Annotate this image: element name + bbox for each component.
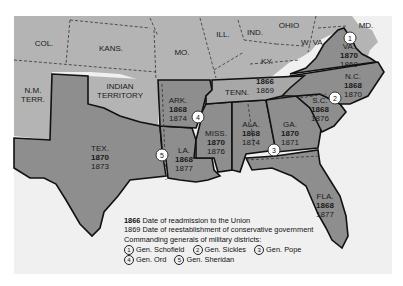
label-kans: KANS.: [99, 44, 123, 53]
legend-conservative: 1869 Date of reestablishment of conserva…: [124, 225, 313, 234]
label-tenn: TENN.: [225, 88, 249, 97]
district-marker-5: 5: [156, 149, 169, 162]
label-miss: MISS.18701876: [205, 129, 227, 156]
legend-generals-heading: Commanding generals of military district…: [124, 235, 313, 244]
legend-readmission: 1866 Date of readmission to the Union: [124, 216, 313, 225]
label-tex: TEX.18701873: [91, 144, 109, 171]
label-tenn-years: 18661869: [256, 77, 274, 95]
label-ohio: OHIO: [279, 21, 299, 30]
label-ga: GA.18701871: [281, 120, 299, 147]
label-fla: FLA.18681877: [316, 192, 334, 219]
label-va: VA.18701869: [340, 42, 358, 69]
label-ky: KY.: [261, 57, 273, 66]
legend-general-5: 5Gen. Sheridan: [174, 255, 234, 264]
legend-general-1: 1Gen. Schofield: [124, 245, 184, 254]
label-ark: ARK.18681874: [169, 96, 188, 123]
label-mo: MO.: [174, 48, 189, 57]
label-md: MD.: [359, 21, 374, 30]
legend-general-4: 4Gen. Ord: [124, 255, 166, 264]
label-la: LA.18681877: [175, 146, 193, 173]
label-col: COL.: [35, 39, 54, 48]
map-legend: 1866 Date of readmission to the Union 18…: [124, 216, 313, 265]
label-sc: S.C.18681876: [311, 96, 329, 123]
district-marker-2: 2: [329, 92, 342, 105]
legend-generals-row-2: 4Gen. Ord 5Gen. Sheridan: [124, 255, 313, 265]
label-ind: IND.: [247, 28, 263, 37]
legend-general-3: 3Gen. Pope: [254, 245, 301, 254]
district-marker-1: 1: [344, 32, 357, 45]
label-wva: W. VA.: [301, 38, 325, 47]
label-indian-territory: INDIANTERRITORY: [97, 82, 143, 100]
district-marker-4: 4: [192, 111, 205, 124]
label-ala: ALA.18681874: [242, 120, 260, 147]
label-ill: ILL.: [216, 30, 229, 39]
label-nc: N.C.18681870: [344, 72, 362, 99]
legend-generals-row-1: 1Gen. Schofield 2Gen. Sickles 3Gen. Pope: [124, 245, 313, 255]
label-nm: N.M.TERR.: [21, 86, 45, 104]
district-marker-3: 3: [268, 144, 281, 157]
legend-general-2: 2Gen. Sickles: [193, 245, 247, 254]
